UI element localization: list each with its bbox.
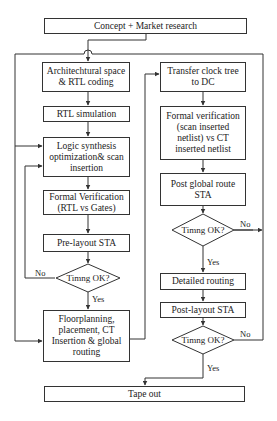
- floorplanning-box: Floorplanning, placement, CT Insertion &…: [43, 310, 130, 362]
- detailed-label: Detailed routing: [172, 276, 234, 287]
- floorplan-label: Floorplanning, placement, CT Insertion &…: [46, 314, 127, 358]
- transfer-label: Transfer clock tree to DC: [163, 66, 243, 88]
- detailed-routing-box: Detailed routing: [160, 273, 246, 290]
- formal-verification-right-box: Formal verification (scan inserted netli…: [160, 106, 246, 160]
- logic-synthesis-box: Logic synthesis optimization& scan inser…: [43, 137, 130, 177]
- formal-verification-left-box: Formal Verification (RTL vs Gates): [43, 190, 130, 215]
- post-sta-label: Post-layout STA: [172, 305, 235, 316]
- timing-check-2-label: Timng OK?: [182, 225, 225, 235]
- timing-check-1-label: Timng OK?: [67, 273, 110, 283]
- concept-label: Concept + Market research: [94, 21, 197, 32]
- no-label-timing1: No: [35, 268, 45, 278]
- formal-right-label: Formal verification (scan inserted netli…: [163, 111, 243, 155]
- concept-market-research-box: Concept + Market research: [44, 18, 247, 34]
- logic-syn-label: Logic synthesis optimization& scan inser…: [46, 141, 127, 174]
- arch-label: Architechtural space & RTL coding: [45, 66, 127, 88]
- no-label-timing2: No: [240, 219, 250, 229]
- yes-label-timing1: Yes: [92, 294, 104, 304]
- yes-label-timing2: Yes: [207, 257, 219, 267]
- tape-out-box: Tape out: [44, 386, 245, 402]
- no-label-timing3: No: [240, 329, 250, 339]
- pre-layout-sta-box: Pre-layout STA: [43, 234, 130, 252]
- yes-label-timing3: Yes: [207, 363, 219, 373]
- tapeout-label: Tape out: [128, 389, 161, 400]
- transfer-clock-tree-box: Transfer clock tree to DC: [160, 62, 246, 92]
- pre-sta-label: Pre-layout STA: [57, 238, 116, 249]
- formal-left-label: Formal Verification (RTL vs Gates): [46, 192, 127, 214]
- post-layout-sta-box: Post-layout STA: [160, 302, 246, 318]
- post-global-label: Post global route STA: [163, 179, 243, 201]
- timing-check-3-label: Timng OK?: [182, 335, 225, 345]
- post-global-route-sta-box: Post global route STA: [160, 173, 246, 206]
- rtl-simulation-box: RTL simulation: [43, 106, 130, 122]
- rtl-sim-label: RTL simulation: [57, 109, 117, 120]
- architectural-rtl-coding-box: Architechtural space & RTL coding: [42, 62, 130, 92]
